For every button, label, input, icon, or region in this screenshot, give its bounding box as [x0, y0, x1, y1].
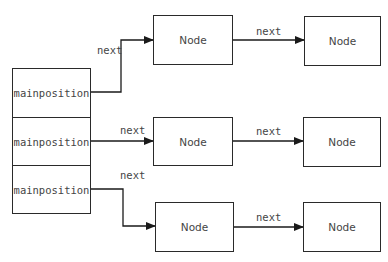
- next-label-slot1: next: [97, 44, 122, 56]
- node-label: Node: [179, 34, 206, 46]
- mainposition-slot-2: mainposition: [12, 117, 91, 166]
- node-row3-second: Node: [303, 202, 381, 252]
- next-label-row1: next: [256, 25, 281, 37]
- node-row1-second: Node: [304, 16, 381, 66]
- node-row2-second: Node: [303, 117, 381, 167]
- node-label: Node: [181, 221, 208, 233]
- node-row1-first: Node: [153, 15, 233, 65]
- next-label-slot2: next: [120, 124, 145, 136]
- mainposition-slot-1: mainposition: [12, 68, 91, 118]
- next-label-row3: next: [256, 211, 281, 223]
- next-label-slot3: next: [120, 169, 145, 181]
- next-label-row2: next: [256, 125, 281, 137]
- node-row2-first: Node: [153, 117, 233, 166]
- node-label: Node: [179, 136, 206, 148]
- node-row3-first: Node: [155, 202, 234, 252]
- node-label: Node: [328, 221, 355, 233]
- slot-label: mainposition: [14, 87, 90, 99]
- node-label: Node: [329, 35, 356, 47]
- arrow-slot3-to-node: [90, 189, 155, 226]
- mainposition-slot-3: mainposition: [12, 165, 91, 214]
- node-label: Node: [328, 136, 355, 148]
- slot-label: mainposition: [14, 136, 90, 148]
- slot-label: mainposition: [14, 184, 90, 196]
